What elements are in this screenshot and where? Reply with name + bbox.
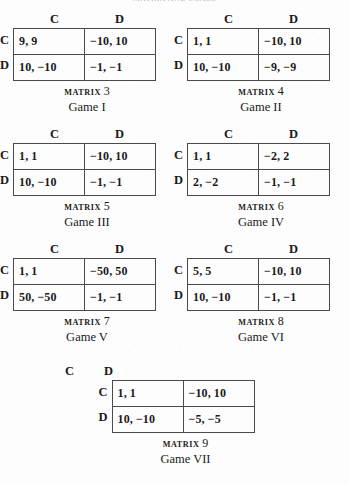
payoff-matrix: 9, 9 −10, 10 10, −10 −1, −1: [13, 28, 156, 81]
payoff-matrix: 1, 1 −2, 2 2, −2 −1, −1: [187, 143, 330, 196]
game-block-matrix-4: C D C D 1, 1 −10, 10 10, −10 −9, −9: [174, 11, 348, 115]
payoff-cell-dc: 10, −10: [14, 55, 85, 81]
game-label: Game IV: [196, 215, 326, 230]
game-label: Game V: [22, 330, 152, 345]
payoff-cell-cc: 1, 1: [14, 144, 85, 170]
payoff-matrix: 5, 5 −10, 10 10, −10 −1, −1: [187, 258, 330, 311]
payoff-cell-dd: −5, −5: [183, 407, 254, 433]
matrix-word: MATRIX: [64, 203, 101, 212]
row-headers: C D: [99, 380, 112, 433]
row-header-c: C: [0, 143, 13, 168]
payoff-cell-dd: −1, −1: [85, 55, 156, 81]
row-headers: C D: [174, 258, 187, 311]
column-header-c: C: [65, 363, 74, 380]
game-table-matrix-8: C D C D 5, 5 −10, 10 10, −10 −1, −1: [174, 241, 326, 345]
column-header-d: D: [104, 363, 113, 380]
game-block-matrix-9: C D C D 1, 1 −10, 10 10, −10: [0, 363, 349, 473]
payoff-cell-cd: −10, 10: [259, 259, 330, 285]
game-block-matrix-5: C D C D 1, 1 −10, 10 10, −10 −1, −1: [0, 126, 174, 230]
matrix-row-1: C D C D 9, 9 −10, 10 10, −10 −1, −1: [0, 11, 349, 115]
payoff-cell-cd: −10, 10: [183, 381, 254, 407]
payoff-cell-dd: −1, −1: [259, 170, 330, 196]
row-header-d: D: [0, 168, 13, 193]
matrix-body: C D 1, 1 −2, 2 2, −2 −1, −1: [174, 143, 326, 196]
column-headers: C D: [0, 363, 349, 380]
payoff-cell-dc: 10, −10: [188, 55, 259, 81]
matrix-label: MATRIX 3: [22, 84, 152, 100]
payoff-matrix: 1, 1 −10, 10 10, −10 −9, −9: [187, 28, 330, 81]
payoff-cell-cd: −10, 10: [259, 29, 330, 55]
table-row: 1, 1 −10, 10: [112, 381, 254, 407]
payoff-cell-cc: 5, 5: [188, 259, 259, 285]
matrix-word: MATRIX: [64, 88, 101, 97]
game-table-matrix-7: C D C D 1, 1 −50, 50 50, −50 −1, −1: [0, 241, 152, 345]
table-row: 50, −50 −1, −1: [14, 285, 156, 311]
row-header-c: C: [174, 28, 187, 53]
payoff-cell-dc: 50, −50: [14, 285, 85, 311]
game-table-matrix-4: C D C D 1, 1 −10, 10 10, −10 −9, −9: [174, 11, 326, 115]
table-row: 10, −10 −5, −5: [112, 407, 254, 433]
matrix-caption: MATRIX 4 Game II: [196, 84, 326, 115]
matrix-number: 8: [278, 314, 284, 328]
game-block-matrix-7: C D C D 1, 1 −50, 50 50, −50 −1, −1: [0, 241, 174, 345]
row-headers: C D: [0, 28, 13, 81]
payoff-cell-dc: 10, −10: [14, 170, 85, 196]
matrix-body: C D 1, 1 −10, 10 10, −10 −5, −5: [99, 380, 251, 433]
table-row: 2, −2 −1, −1: [188, 170, 330, 196]
matrix-word: MATRIX: [238, 318, 275, 327]
row-header-d: D: [0, 283, 13, 308]
payoff-cell-dc: 10, −10: [112, 407, 183, 433]
matrix-word: MATRIX: [238, 203, 275, 212]
matrix-word: MATRIX: [64, 318, 101, 327]
payoff-cell-dc: 2, −2: [188, 170, 259, 196]
table-row: 10, −10 −1, −1: [188, 285, 330, 311]
table-row: 1, 1 −50, 50: [14, 259, 156, 285]
game-label: Game VI: [196, 330, 326, 345]
matrix-body: C D 1, 1 −10, 10 10, −10 −9, −9: [174, 28, 326, 81]
game-block-matrix-3: C D C D 9, 9 −10, 10 10, −10 −1, −1: [0, 11, 174, 115]
row-header-c: C: [0, 28, 13, 53]
matrix-body: C D 1, 1 −50, 50 50, −50 −1, −1: [0, 258, 152, 311]
matrix-label: MATRIX 8: [196, 314, 326, 330]
matrix-body: C D 5, 5 −10, 10 10, −10 −1, −1: [174, 258, 326, 311]
game-table-matrix-6: C D C D 1, 1 −2, 2 2, −2 −1, −1: [174, 126, 326, 230]
matrix-word: MATRIX: [238, 88, 275, 97]
matrix-9-wrapper: C D 1, 1 −10, 10 10, −10 −5, −5: [0, 380, 349, 467]
row-headers: C D: [0, 258, 13, 311]
column-header-c: C: [196, 241, 261, 258]
matrix-caption: MATRIX 6 Game IV: [196, 199, 326, 230]
column-header-d: D: [261, 126, 326, 143]
row-header-c: C: [0, 258, 13, 283]
matrix-number: 7: [104, 314, 110, 328]
matrix-body: C D 1, 1 −10, 10 10, −10 −1, −1: [0, 143, 152, 196]
table-row: 1, 1 −10, 10: [14, 144, 156, 170]
matrix-label: MATRIX 9: [121, 436, 251, 452]
payoff-cell-cd: −10, 10: [85, 29, 156, 55]
table-row: 10, −10 −1, −1: [14, 170, 156, 196]
matrix-number: 6: [278, 199, 284, 213]
matrix-number: 5: [104, 199, 110, 213]
table-row: 5, 5 −10, 10: [188, 259, 330, 285]
column-header-d: D: [261, 11, 326, 28]
payoff-cell-cd: −10, 10: [85, 144, 156, 170]
payoff-matrix: 1, 1 −10, 10 10, −10 −5, −5: [112, 380, 255, 433]
column-header-c: C: [196, 126, 261, 143]
matrix-number: 3: [104, 84, 110, 98]
payoff-cell-cc: 1, 1: [14, 259, 85, 285]
row-header-d: D: [174, 168, 187, 193]
matrix-number: 4: [278, 84, 284, 98]
matrix-caption: MATRIX 7 Game V: [22, 314, 152, 345]
column-header-c: C: [196, 11, 261, 28]
column-header-d: D: [87, 126, 152, 143]
matrix-label: MATRIX 7: [22, 314, 152, 330]
game-label: Game II: [196, 100, 326, 115]
column-headers: C D: [22, 11, 152, 28]
game-block-matrix-6: C D C D 1, 1 −2, 2 2, −2 −1, −1: [174, 126, 348, 230]
payoff-cell-dd: −1, −1: [85, 170, 156, 196]
matrix-body: C D 9, 9 −10, 10 10, −10 −1, −1: [0, 28, 152, 81]
payoff-matrix: 1, 1 −10, 10 10, −10 −1, −1: [13, 143, 156, 196]
payoff-cell-cd: −2, 2: [259, 144, 330, 170]
row-headers: C D: [174, 28, 187, 81]
table-row: 10, −10 −1, −1: [14, 55, 156, 81]
row-header-d: D: [174, 283, 187, 308]
